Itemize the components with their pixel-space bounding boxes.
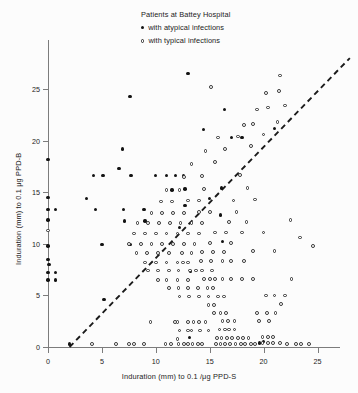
data-point-atypical xyxy=(46,158,49,161)
data-point-typical xyxy=(167,251,171,255)
data-point-atypical xyxy=(117,167,120,170)
data-point-typical xyxy=(241,336,245,340)
data-point-atypical xyxy=(186,72,189,75)
data-point-typical xyxy=(264,294,268,298)
data-point-typical xyxy=(46,229,50,233)
data-point-atypical xyxy=(121,147,124,150)
data-point-typical xyxy=(267,319,271,323)
data-point-typical xyxy=(197,199,201,203)
data-point-typical xyxy=(285,342,289,346)
data-point-typical xyxy=(247,336,251,340)
data-point-typical xyxy=(249,144,253,148)
data-point-typical xyxy=(236,336,240,340)
data-point-atypical xyxy=(46,244,49,247)
data-point-typical xyxy=(127,242,131,246)
data-point-typical xyxy=(182,242,186,246)
data-point-typical xyxy=(200,174,204,178)
data-point-typical xyxy=(224,311,228,315)
data-point-typical xyxy=(182,211,186,215)
data-point-typical xyxy=(215,336,219,340)
data-point-typical xyxy=(279,302,283,306)
data-point-typical xyxy=(212,311,216,315)
data-point-atypical xyxy=(183,187,186,190)
data-point-typical xyxy=(225,336,229,340)
data-point-atypical xyxy=(46,196,49,199)
data-point-atypical xyxy=(183,204,186,207)
data-point-typical xyxy=(227,220,231,224)
data-point-typical xyxy=(251,122,255,126)
data-point-atypical xyxy=(123,219,126,222)
data-point-typical xyxy=(249,342,253,346)
data-point-typical xyxy=(223,342,227,346)
data-point-typical xyxy=(211,250,215,254)
data-point-typical xyxy=(266,341,270,345)
data-point-typical xyxy=(196,286,200,290)
data-point-typical xyxy=(176,278,180,282)
data-point-atypical xyxy=(46,218,49,221)
data-point-typical xyxy=(132,342,136,346)
data-point-typical xyxy=(197,320,201,324)
data-point-typical xyxy=(265,311,269,315)
data-point-typical xyxy=(307,342,311,346)
data-point-typical xyxy=(200,342,204,346)
data-point-typical xyxy=(197,232,201,236)
data-point-typical xyxy=(176,337,180,341)
data-point-typical xyxy=(214,342,218,346)
data-point-typical xyxy=(273,249,277,253)
data-point-typical xyxy=(219,342,223,346)
data-point-typical xyxy=(180,251,184,255)
data-point-typical xyxy=(197,210,201,214)
data-point-typical xyxy=(211,286,215,290)
data-point-typical xyxy=(277,89,281,93)
data-point-typical xyxy=(207,303,211,307)
data-point-atypical xyxy=(68,342,71,345)
data-point-typical xyxy=(156,278,160,282)
data-point-atypical xyxy=(102,298,105,301)
data-point-typical xyxy=(197,295,201,299)
data-point-typical xyxy=(299,342,303,346)
data-point-typical xyxy=(160,211,164,215)
data-point-typical xyxy=(228,342,232,346)
data-point-atypical xyxy=(170,188,173,191)
data-point-atypical xyxy=(46,258,49,261)
data-point-atypical xyxy=(202,128,205,131)
data-point-typical xyxy=(311,244,315,248)
data-point-typical xyxy=(223,328,227,332)
data-point-typical xyxy=(222,295,226,299)
data-point-typical xyxy=(209,259,213,263)
identity-line xyxy=(0,0,358,393)
data-point-typical xyxy=(264,91,268,95)
data-point-typical xyxy=(274,311,278,315)
data-point-typical xyxy=(226,319,230,323)
data-point-typical xyxy=(213,277,217,281)
data-point-typical xyxy=(238,173,242,177)
data-point-typical xyxy=(164,342,168,346)
data-point-atypical xyxy=(142,208,145,211)
data-point-typical xyxy=(224,231,228,235)
data-point-typical xyxy=(253,198,257,202)
data-point-typical xyxy=(171,211,175,215)
data-point-typical xyxy=(253,342,257,346)
data-point-typical xyxy=(204,149,208,153)
data-point-typical xyxy=(154,232,158,236)
data-point-typical xyxy=(255,311,259,315)
data-point-typical xyxy=(194,269,198,273)
data-point-typical xyxy=(186,278,190,282)
data-point-typical xyxy=(157,221,161,225)
data-point-typical xyxy=(186,342,190,346)
data-point-typical xyxy=(168,221,172,225)
data-point-typical xyxy=(229,241,233,245)
data-point-typical xyxy=(236,135,240,139)
data-point-typical xyxy=(182,175,186,179)
data-point-atypical xyxy=(47,263,50,266)
scatter-plot-figure: Patients at Battey Hospital with atypica… xyxy=(0,0,358,393)
data-point-typical xyxy=(243,342,247,346)
data-point-typical xyxy=(150,242,154,246)
data-point-typical xyxy=(154,261,158,265)
data-point-typical xyxy=(167,286,171,290)
data-point-typical xyxy=(208,241,212,245)
data-point-atypical xyxy=(273,127,276,130)
data-point-typical xyxy=(171,242,175,246)
data-point-typical xyxy=(278,341,282,345)
data-point-typical xyxy=(196,342,200,346)
